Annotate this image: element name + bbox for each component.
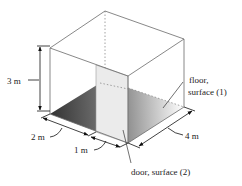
left-segment-label: 2 m: [31, 132, 45, 142]
depth-label: 4 m: [185, 131, 199, 141]
door-label: door, surface (2): [131, 167, 190, 177]
floor-label-line1: floor,: [189, 75, 208, 85]
floor-label-line2: surface (1): [188, 87, 227, 97]
room-diagram: 3 m 2 m 1 m 4 m floor, surface (1) door,…: [0, 0, 242, 186]
dimension-height: [28, 46, 50, 111]
height-label: 3 m: [7, 76, 21, 86]
door-width-label: 1 m: [74, 145, 88, 155]
